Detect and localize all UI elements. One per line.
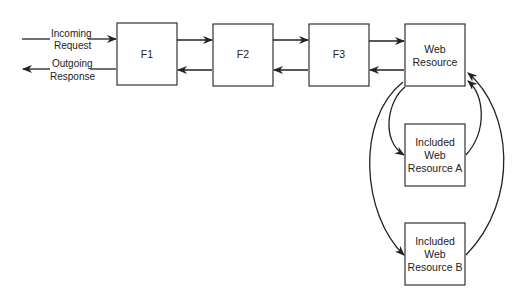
included-a-label-line2: Web <box>424 149 446 161</box>
included-b-label-line3: Resource B <box>408 261 463 273</box>
filter-f2-label: F2 <box>237 48 249 60</box>
filter-f1-label: F1 <box>141 48 153 60</box>
incoming-label-line2: Request <box>54 40 91 51</box>
arrow-included-b-to-web-resource <box>466 73 504 255</box>
included-b-label-line2: Web <box>424 248 446 260</box>
arrow-web-resource-to-included-b <box>370 82 404 255</box>
included-a-label-line1: Included <box>415 136 455 148</box>
included-a-label-line3: Resource A <box>408 162 462 174</box>
filter-f3-label: F3 <box>333 48 345 60</box>
web-resource-label-line2: Resource <box>413 56 458 68</box>
web-resource-label-line1: Web <box>424 43 446 55</box>
outgoing-label-line2: Response <box>50 71 95 82</box>
incoming-label-line1: Incoming <box>51 28 92 39</box>
arrow-web-resource-to-included-a <box>389 87 405 155</box>
web-resource-box <box>405 24 465 86</box>
outgoing-label-line1: Outgoing <box>52 58 93 69</box>
arrow-included-a-to-web-resource <box>466 81 481 155</box>
included-b-label-line1: Included <box>415 235 455 247</box>
filter-chain-diagram: Incoming Request Outgoing Response F1 F2… <box>0 0 524 298</box>
